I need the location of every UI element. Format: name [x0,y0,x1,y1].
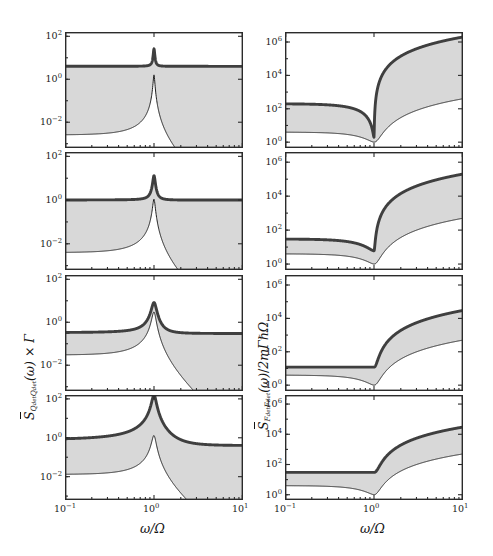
y-tick-label: 102 [38,31,62,41]
x-tick-label: 100 [363,504,379,514]
y-tick-label: 100 [258,259,282,269]
y-tick-label: 100 [258,380,282,390]
y-axis-label-left: SQdetQdet(ω) × Γ [22,334,38,420]
figure-root: SQdetQdet(ω) × Γ SFdetFdet(ω)/2mΓℏΩ ω/Ω … [0,0,493,556]
y-tick-label: 106 [258,37,282,47]
x-tick-label: 10−1 [54,504,76,514]
plot-panel-right-1 [285,32,463,148]
plot-panel-right-4 [285,395,463,500]
y-axis-left-subscript: QdetQdet [29,381,38,411]
y-tick-label: 102 [38,274,62,284]
y-tick-label: 102 [258,347,282,357]
y-tick-label: 106 [258,157,282,167]
uncertainty-band-left-4 [65,395,243,500]
y-tick-label: 100 [38,195,62,205]
y-tick-label: 100 [258,137,282,147]
uncertainty-band-left-2 [65,176,243,270]
y-tick-label: 102 [258,459,282,469]
y-tick-label: 10−2 [38,360,62,370]
y-tick-label: 106 [258,280,282,290]
y-tick-label: 10−2 [38,239,62,249]
y-tick-label: 106 [258,399,282,409]
uncertainty-band-left-3 [65,303,243,391]
y-tick-label: 104 [258,191,282,201]
y-tick-label: 100 [258,490,282,500]
plot-panel-left-3 [65,275,243,391]
x-tick-label: 101 [232,504,248,514]
plot-panel-right-3 [285,275,463,391]
uncertainty-band-right-4 [285,427,463,495]
y-tick-label: 104 [258,70,282,80]
y-tick-label: 10−2 [38,117,62,127]
y-tick-label: 100 [38,74,62,84]
y-tick-label: 10−2 [38,472,62,482]
y-tick-label: 100 [38,433,62,443]
y-tick-label: 104 [258,429,282,439]
y-tick-label: 102 [38,394,62,404]
uncertainty-band-left-1 [65,49,243,148]
x-tick-label: 10−1 [274,504,296,514]
y-tick-label: 102 [258,225,282,235]
y-axis-label-right: SFdetFdet(ω)/2mΓℏΩ [256,322,272,430]
plot-panel-left-2 [65,152,243,270]
x-axis-label-left: ω/Ω [140,521,165,536]
plot-panel-left-1 [65,32,243,148]
y-axis-left-symbol: S [22,411,37,420]
x-tick-label: 101 [452,504,468,514]
y-tick-label: 104 [258,313,282,323]
x-axis-label-right: ω/Ω [360,521,385,536]
uncertainty-band-right-3 [285,310,463,385]
y-tick-label: 102 [38,151,62,161]
y-tick-label: 102 [258,104,282,114]
y-tick-label: 100 [38,317,62,327]
plot-panel-left-4 [65,395,243,500]
x-tick-label: 100 [143,504,159,514]
plot-panel-right-2 [285,152,463,270]
